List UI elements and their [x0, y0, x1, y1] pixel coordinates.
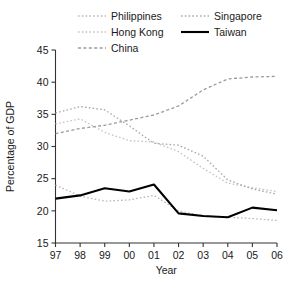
y-axis-tick-labels: 15202530354045	[37, 44, 49, 249]
series-line-china	[56, 76, 278, 133]
x-tick-99: 99	[99, 249, 111, 261]
x-axis-title: Year	[156, 264, 178, 276]
series-lines	[56, 76, 278, 220]
x-axis-tick-labels: 97989900010203040506	[50, 249, 283, 261]
plot-area: 15202530354045 97989900010203040506 Perc…	[0, 0, 287, 285]
x-tick-02: 02	[173, 249, 185, 261]
y-tick-45: 45	[37, 44, 49, 56]
x-tick-00: 00	[123, 249, 135, 261]
x-tick-98: 98	[74, 249, 86, 261]
y-tick-15: 15	[37, 237, 49, 249]
y-axis-title: Percentage of GDP	[4, 101, 16, 192]
plot-svg: 15202530354045 97989900010203040506 Perc…	[0, 0, 287, 285]
series-line-philippines	[56, 185, 278, 220]
x-tick-01: 01	[148, 249, 160, 261]
y-tick-25: 25	[37, 172, 49, 184]
x-tick-05: 05	[247, 249, 259, 261]
y-tick-30: 30	[37, 140, 49, 152]
x-tick-06: 06	[271, 249, 283, 261]
x-tick-03: 03	[197, 249, 209, 261]
x-tick-04: 04	[222, 249, 234, 261]
chart-figure: Philippines Hong Kong China Singapore	[0, 0, 287, 285]
y-tick-35: 35	[37, 108, 49, 120]
series-line-taiwan	[56, 184, 278, 217]
series-line-hong-kong	[56, 119, 278, 192]
y-tick-40: 40	[37, 76, 49, 88]
y-tick-20: 20	[37, 205, 49, 217]
axis-lines	[52, 50, 278, 247]
x-tick-97: 97	[50, 249, 62, 261]
series-line-singapore	[56, 107, 278, 195]
